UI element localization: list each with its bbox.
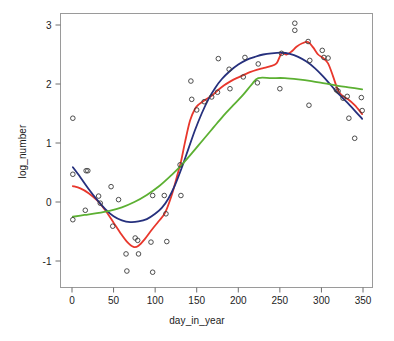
data-point (164, 239, 169, 244)
data-point (307, 58, 312, 63)
data-point (352, 136, 357, 141)
data-point (136, 252, 141, 257)
data-point (150, 270, 155, 275)
y-axis-ticks: -10123 (43, 20, 61, 267)
data-point (255, 81, 260, 86)
data-point (228, 86, 233, 91)
data-point (360, 108, 365, 113)
data-point (320, 48, 325, 53)
data-point (179, 193, 184, 198)
x-tick-label: 300 (313, 295, 330, 306)
data-point (71, 116, 76, 121)
y-tick-label: 2 (46, 79, 52, 90)
chart-figure: 050100150200250300350 -10123 day_in_year… (0, 0, 394, 341)
data-point (307, 103, 312, 108)
data-point (83, 208, 88, 213)
plot-canvas: 050100150200250300350 -10123 (0, 0, 394, 341)
data-point (149, 240, 154, 245)
data-point (150, 193, 155, 198)
smoother-line-green-smoother (73, 78, 362, 217)
data-point (347, 116, 352, 121)
scatter-points (71, 21, 365, 275)
data-point (71, 217, 76, 222)
data-point (189, 97, 194, 102)
y-tick-label: 1 (46, 138, 52, 149)
data-point (189, 79, 194, 84)
data-point (96, 194, 101, 199)
y-tick-label: 0 (46, 197, 52, 208)
data-point (278, 86, 283, 91)
x-tick-label: 250 (272, 295, 289, 306)
smoother-line-navy-smoother (73, 53, 362, 222)
smoother-curves (73, 42, 362, 247)
data-point (216, 56, 221, 61)
data-point (243, 55, 248, 60)
data-point (162, 193, 167, 198)
data-point (110, 224, 115, 229)
data-point (125, 269, 130, 274)
data-point (124, 252, 129, 257)
x-tick-label: 0 (69, 295, 75, 306)
data-point (293, 21, 298, 26)
x-tick-label: 200 (230, 295, 247, 306)
x-tick-label: 50 (108, 295, 120, 306)
x-axis-title: day_in_year (0, 315, 394, 326)
data-point (359, 95, 364, 100)
y-tick-label: 3 (46, 20, 52, 31)
data-point (256, 62, 261, 67)
y-axis-title: log_number (17, 92, 28, 212)
x-tick-label: 350 (355, 295, 372, 306)
x-tick-label: 150 (188, 295, 205, 306)
plot-border (61, 14, 373, 288)
data-point (109, 184, 114, 189)
data-point (293, 28, 298, 33)
x-tick-label: 100 (147, 295, 164, 306)
plot-frame (61, 14, 373, 288)
x-axis-ticks: 050100150200250300350 (69, 288, 372, 306)
data-point (71, 172, 76, 177)
data-point (116, 197, 121, 202)
y-tick-label: -1 (43, 256, 52, 267)
